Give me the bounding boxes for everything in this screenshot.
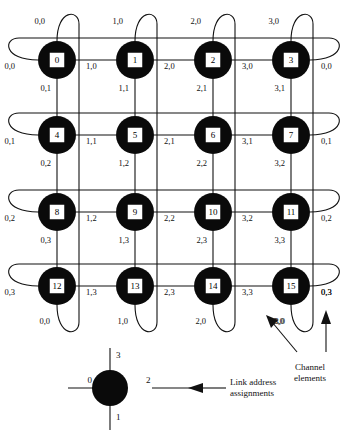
node-6[interactable]: 6 [194,116,232,154]
row-wrap-hook-left-r1 [9,113,38,135]
node-12[interactable]: 12 [38,267,76,305]
left-label-r3: 0,3 [4,287,15,297]
node-11[interactable]: 11 [272,193,310,231]
channel-arrow-b-head [321,310,331,324]
v-label-c0-r1: 0,2 [40,158,51,168]
node-8-label: 8 [55,207,60,217]
channel-elements-line1: Channel [295,362,325,372]
node-0-label: 0 [55,55,60,65]
channel-elements-line2: elements [294,373,326,383]
top-label-c1: 1,0 [112,16,123,26]
node-2[interactable]: 2 [194,41,232,79]
col-wrap-hook-top-c3 [291,14,313,41]
h-label-r0-c1: 2,0 [164,61,175,71]
torus-network-diagram: 0123456789101112131415 0,01,02,03,00,01,… [0,0,346,448]
col-wrap-hook-bottom-c2 [213,305,235,332]
bottom-label-c0: 0,0 [39,316,50,326]
figure-canvas: 0123456789101112131415 0,01,02,03,00,01,… [0,0,346,448]
node-13[interactable]: 13 [116,267,154,305]
legend-caption-line2: assignments [230,388,274,398]
legend-label-link-left: 0 [88,375,93,385]
node-7[interactable]: 7 [272,116,310,154]
legend-node [92,370,128,406]
legend-label-link-bottom: 1 [116,412,121,422]
node-10-label: 10 [209,207,219,217]
right-label-r1: 0,1 [321,136,332,146]
v-label-c3-r2: 3,3 [274,235,285,245]
col-wrap-hook-bottom-c0 [57,305,79,332]
node-4-label: 4 [55,130,60,140]
h-label-r0-c0: 1,0 [86,61,97,71]
row-wrap-hook-right-r1 [310,113,339,135]
top-label-c3: 3,0 [268,16,279,26]
row-wrap-hook-right-r3 [310,264,339,286]
h-label-r2-c0: 1,2 [86,213,97,223]
node-14[interactable]: 14 [194,267,232,305]
bottom-label-c1: 1,0 [117,316,128,326]
v-label-c3-r0: 3,1 [274,83,285,93]
v-label-c3-r1: 3,2 [274,158,285,168]
v-label-c2-r0: 2,1 [196,83,207,93]
node-3[interactable]: 3 [272,41,310,79]
row-wrap-hook-right-r0 [310,38,339,60]
h-label-r1-c1: 2,1 [164,136,175,146]
row-wrap-hook-right-r2 [310,190,339,212]
node-1-label: 1 [133,55,138,65]
right-label-r2: 0,2 [321,213,332,223]
v-label-c1-r0: 1,1 [118,83,129,93]
node-10[interactable]: 10 [194,193,232,231]
col-wrap-hook-top-c2 [213,14,235,41]
v-label-c1-r2: 1,3 [118,235,129,245]
v-label-c0-r0: 0,1 [40,83,51,93]
col-wrap-hook-top-c1 [135,14,157,41]
row-wrap-hook-left-r2 [9,190,38,212]
channel-elements-annotation: Channel elements [266,310,331,383]
node-9[interactable]: 9 [116,193,154,231]
legend-caption-line1: Link address [230,377,277,387]
h-label-r2-c1: 2,2 [164,213,175,223]
h-label-r3-c1: 2,3 [164,287,175,297]
h-label-r1-c0: 1,1 [86,136,97,146]
col-wrap-hook-bottom-c1 [135,305,157,332]
v-label-c0-r2: 0,3 [40,235,51,245]
node-3-label: 3 [289,55,294,65]
node-14-label: 14 [209,281,219,291]
h-label-r0-c2: 3,0 [242,61,253,71]
node-11-label: 11 [287,207,296,217]
node-12-label: 12 [53,281,62,291]
node-13-label: 13 [131,281,141,291]
legend-label-link-right: 2 [146,375,151,385]
node-1[interactable]: 1 [116,41,154,79]
legend-label-link-top: 3 [116,350,121,360]
top-label-c0: 0,0 [34,16,45,26]
row-wrap-hook-left-r3 [9,264,38,286]
col-wrap-hook-bottom-c3 [291,305,313,332]
legend-link-address-assignments: 0 2 3 1 Link address assignments [68,348,277,430]
node-9-label: 9 [133,207,138,217]
col-wrap-hook-top-c0 [57,14,79,41]
node-4[interactable]: 4 [38,116,76,154]
v-label-c2-r2: 2,3 [196,235,207,245]
node-5-label: 5 [133,130,138,140]
row-wrap-hook-left-r0 [9,38,38,60]
node-5[interactable]: 5 [116,116,154,154]
v-label-c1-r1: 1,2 [118,158,129,168]
node-8[interactable]: 8 [38,193,76,231]
left-label-r0: 0,0 [4,61,15,71]
node-7-label: 7 [289,130,294,140]
h-label-r1-c2: 3,1 [242,136,253,146]
channel-arrow-a-line [272,322,297,352]
v-label-c2-r1: 2,2 [196,158,207,168]
bottom-label-c2: 2,0 [195,316,206,326]
channel-label-b: 0,3 [321,287,332,297]
right-label-r0: 0,0 [321,61,332,71]
node-0[interactable]: 0 [38,41,76,79]
left-label-r2: 0,2 [4,213,15,223]
left-label-r1: 0,1 [4,136,15,146]
h-label-r2-c2: 3,2 [242,213,253,223]
node-15[interactable]: 15 [272,267,310,305]
h-label-r3-c2: 3,3 [242,287,253,297]
node-2-label: 2 [211,55,216,65]
top-label-c2: 2,0 [190,16,201,26]
h-label-r3-c0: 1,3 [86,287,97,297]
